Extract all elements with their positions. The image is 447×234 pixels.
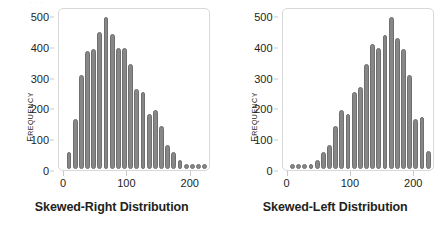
plot-area — [58, 8, 210, 171]
x-axis-label: Skewed-Right Distribution — [0, 200, 224, 214]
histogram-bar — [128, 64, 133, 169]
y-tick-mark — [274, 78, 278, 79]
x-tick-label: 200 — [404, 177, 422, 189]
y-tick-label: 300 — [31, 73, 49, 85]
histogram-bar — [352, 92, 357, 169]
histogram-bar — [97, 32, 102, 169]
histogram-bar — [122, 48, 127, 170]
histogram-bar — [91, 49, 96, 169]
histogram-bar — [389, 17, 394, 169]
histogram-bar — [339, 110, 344, 169]
histogram-bar — [171, 152, 176, 169]
histogram-bar — [376, 48, 381, 170]
y-tick-label: 0 — [43, 165, 49, 177]
bar-series — [61, 10, 207, 169]
y-tick-mark — [274, 17, 278, 18]
cropped-caption-artifact: · · · — [0, 0, 224, 6]
histogram-bar — [190, 164, 195, 170]
x-tick-mark — [350, 171, 351, 176]
histogram-bar — [364, 64, 369, 169]
x-tick-label: 100 — [341, 177, 359, 189]
histogram-bar — [165, 145, 170, 169]
histogram-bar — [196, 164, 201, 170]
histogram-bar — [116, 48, 121, 170]
x-axis-ticks: 0100200 — [58, 171, 210, 191]
chart-panel-skewed-right: · · · Frequency 5004003002001000 0100200… — [0, 0, 224, 234]
x-tick-mark — [63, 171, 64, 176]
y-tick-mark — [274, 171, 278, 172]
histogram-bar — [141, 92, 146, 169]
y-axis-ticks: 5004003002001000 — [238, 8, 278, 171]
chart-panel-skewed-left: Frequency 5004003002001000 0100200 Skewe… — [224, 0, 447, 234]
y-tick-label: 400 — [254, 42, 272, 54]
histogram-bar — [426, 151, 431, 169]
y-tick-label: 100 — [254, 134, 272, 146]
histogram-bar — [407, 75, 412, 169]
histogram-figure: · · · Frequency 5004003002001000 0100200… — [0, 0, 447, 234]
y-tick-mark — [274, 109, 278, 110]
histogram-bar — [104, 17, 109, 169]
y-tick-label: 400 — [31, 42, 49, 54]
histogram-bar — [79, 75, 84, 169]
bar-series — [285, 10, 431, 169]
histogram-bar — [358, 87, 363, 169]
y-axis-ticks: 5004003002001000 — [14, 8, 54, 171]
x-tick-mark — [190, 171, 191, 176]
histogram-bar — [159, 126, 164, 169]
histogram-bar — [302, 164, 307, 170]
y-tick-mark — [50, 109, 54, 110]
x-tick-label: 200 — [181, 177, 199, 189]
y-tick-label: 500 — [254, 11, 272, 23]
histogram-bar — [147, 114, 152, 169]
histogram-bar — [296, 164, 301, 170]
y-tick-mark — [50, 171, 54, 172]
y-tick-label: 200 — [31, 103, 49, 115]
y-tick-label: 200 — [254, 103, 272, 115]
histogram-bar — [85, 51, 90, 169]
histogram-bar — [67, 152, 72, 169]
histogram-bar — [178, 160, 183, 169]
histogram-bar — [315, 160, 320, 169]
y-tick-mark — [50, 140, 54, 141]
x-tick-label: 100 — [117, 177, 135, 189]
y-tick-mark — [50, 78, 54, 79]
y-tick-label: 0 — [266, 165, 272, 177]
plot-area — [282, 8, 434, 171]
histogram-bar — [327, 145, 332, 169]
histogram-bar — [110, 34, 115, 169]
histogram-bar — [202, 164, 207, 170]
histogram-bar — [346, 114, 351, 169]
x-tick-label: 0 — [284, 177, 290, 189]
histogram-bar — [134, 89, 139, 170]
x-tick-mark — [287, 171, 288, 176]
y-tick-label: 300 — [254, 73, 272, 85]
histogram-bar — [383, 35, 388, 169]
y-tick-label: 500 — [31, 11, 49, 23]
histogram-bar — [321, 152, 326, 169]
histogram-bar — [401, 49, 406, 169]
histogram-bar — [370, 44, 375, 169]
histogram-bar — [184, 164, 189, 170]
histogram-bar — [153, 110, 158, 169]
y-tick-mark — [274, 47, 278, 48]
histogram-bar — [395, 38, 400, 169]
x-axis-label: Skewed-Left Distribution — [224, 200, 447, 214]
x-tick-mark — [126, 171, 127, 176]
histogram-bar — [413, 119, 418, 169]
histogram-bar — [420, 117, 425, 169]
x-tick-label: 0 — [60, 177, 66, 189]
y-tick-label: 100 — [31, 134, 49, 146]
y-tick-mark — [50, 17, 54, 18]
x-axis-ticks: 0100200 — [282, 171, 434, 191]
histogram-bar — [309, 164, 314, 170]
y-tick-mark — [50, 47, 54, 48]
x-tick-mark — [413, 171, 414, 176]
y-tick-mark — [274, 140, 278, 141]
histogram-bar — [73, 119, 78, 169]
histogram-bar — [290, 164, 295, 170]
histogram-bar — [333, 126, 338, 169]
